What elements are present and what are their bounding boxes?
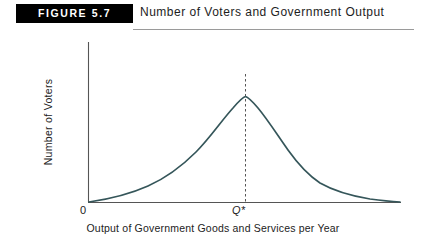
figure-number-badge: FIGURE 5.7 xyxy=(16,4,133,23)
chart-plot-area: Number of Voters 0 Q* Output of Governme… xyxy=(0,32,426,240)
x-axis-qstar-tick-label: Q* xyxy=(232,204,245,216)
figure-title: Number of Voters and Government Output xyxy=(140,5,384,19)
header-divider-rule xyxy=(133,29,414,30)
figure-header: FIGURE 5.7 Number of Voters and Governme… xyxy=(0,0,426,32)
voter-distribution-curve xyxy=(89,97,400,203)
x-axis-origin-tick-label: 0 xyxy=(80,204,86,216)
chart-svg xyxy=(0,32,426,240)
x-axis-label: Output of Government Goods and Services … xyxy=(0,222,426,234)
y-axis-label: Number of Voters xyxy=(42,62,54,182)
